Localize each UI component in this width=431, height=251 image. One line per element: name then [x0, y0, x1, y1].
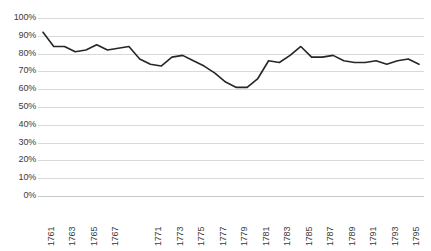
series-line-1 — [43, 32, 419, 87]
data-series — [0, 0, 431, 251]
line-chart: 100%90%80%70%60%50%40%30%20%10%0% 176117… — [0, 0, 431, 251]
